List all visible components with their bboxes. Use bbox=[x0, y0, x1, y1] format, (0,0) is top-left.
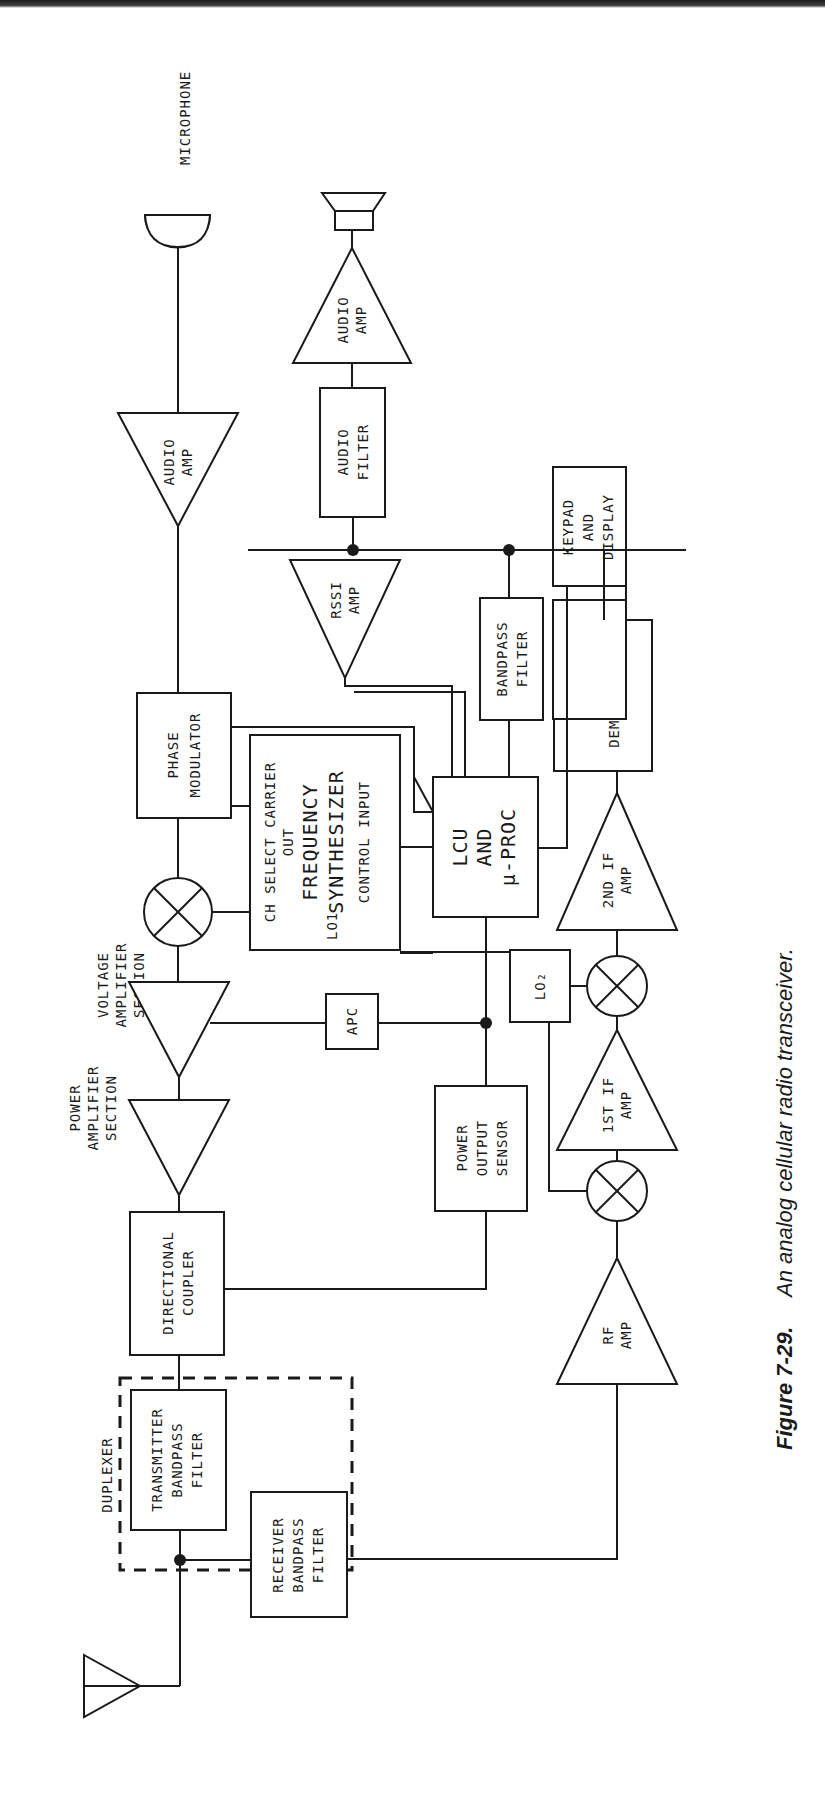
audio-filter-block: AUDIO FILTER bbox=[320, 388, 385, 517]
svg-text:FILTER: FILTER bbox=[310, 1527, 326, 1584]
svg-text:BANDPASS: BANDPASS bbox=[494, 621, 510, 696]
receiver-bandpass-filter-block: RECEIVER BANDPASS FILTER bbox=[251, 1492, 347, 1617]
svg-text:LO₂: LO₂ bbox=[532, 972, 548, 1000]
directional-coupler-block: DIRECTIONAL COUPLER bbox=[130, 1212, 224, 1355]
microphone-icon bbox=[145, 215, 210, 248]
svg-text:RSSI: RSSI bbox=[328, 581, 344, 619]
phase-modulator-block: PHASE MODULATOR bbox=[137, 693, 231, 818]
svg-text:CH SELECT CARRIER: CH SELECT CARRIER bbox=[262, 762, 278, 922]
microphone-label: MICROPHONE bbox=[177, 71, 193, 165]
svg-text:CONTROL INPUT: CONTROL INPUT bbox=[356, 781, 372, 904]
lcu-microprocessor-block: LCU AND µ-PROC bbox=[433, 777, 538, 917]
svg-text:AUDIO: AUDIO bbox=[161, 438, 177, 485]
svg-text:AMPLIFIER: AMPLIFIER bbox=[113, 943, 129, 1028]
svg-text:RECEIVER: RECEIVER bbox=[270, 1517, 286, 1592]
svg-text:2ND IF: 2ND IF bbox=[600, 852, 616, 909]
svg-text:APC: APC bbox=[344, 1007, 360, 1035]
svg-text:AMP: AMP bbox=[353, 306, 369, 334]
svg-text:OUT: OUT bbox=[280, 828, 296, 856]
svg-text:FREQUENCY: FREQUENCY bbox=[298, 783, 322, 900]
duplexer-label: DUPLEXER bbox=[99, 1437, 115, 1512]
svg-text:SYNTHESIZER: SYNTHESIZER bbox=[324, 770, 348, 913]
apc-block: APC bbox=[326, 994, 378, 1049]
svg-text:MICROPHONE: MICROPHONE bbox=[177, 71, 193, 165]
svg-text:SENSOR: SENSOR bbox=[494, 1120, 510, 1177]
keypad-display-block bbox=[553, 600, 626, 719]
svg-text:TRANSMITTER: TRANSMITTER bbox=[149, 1408, 165, 1512]
transceiver-block-diagram: MICROPHONE AUDIO AMP PHASE MODULATOR CH … bbox=[0, 0, 825, 1811]
svg-text:COUPLER: COUPLER bbox=[180, 1250, 196, 1316]
tx-mixer-icon bbox=[144, 878, 212, 946]
rx-mixer-2-icon bbox=[587, 956, 647, 1016]
svg-text:AMP: AMP bbox=[179, 448, 195, 476]
svg-text:AMPLIFIER: AMPLIFIER bbox=[85, 1066, 101, 1151]
svg-text:MODULATOR: MODULATOR bbox=[187, 713, 203, 798]
power-amplifier-label: POWER AMPLIFIER SECTION bbox=[67, 1066, 119, 1151]
rf-amp: RF AMP bbox=[557, 1258, 677, 1384]
svg-text:OUTPUT: OUTPUT bbox=[474, 1120, 490, 1177]
svg-text:AMP: AMP bbox=[618, 866, 634, 894]
svg-text:AMP: AMP bbox=[618, 1091, 634, 1119]
frequency-synthesizer-block: CH SELECT CARRIER OUT FREQUENCY SYNTHESI… bbox=[250, 735, 400, 950]
svg-text:FILTER: FILTER bbox=[514, 631, 530, 688]
bandpass-filter-block: BANDPASS FILTER bbox=[480, 598, 543, 720]
rssi-amp: RSSI AMP bbox=[290, 560, 400, 678]
svg-text:POWER: POWER bbox=[454, 1124, 470, 1171]
svg-text:SECTION: SECTION bbox=[103, 1075, 119, 1141]
svg-text:POWER: POWER bbox=[67, 1084, 83, 1131]
svg-text:LCU: LCU bbox=[448, 827, 472, 866]
svg-text:AMP: AMP bbox=[618, 1321, 634, 1349]
lo2-block: LO₂ bbox=[510, 950, 570, 1022]
svg-text:AMP: AMP bbox=[346, 586, 362, 614]
svg-text:PHASE: PHASE bbox=[165, 731, 181, 778]
antenna-icon bbox=[84, 1655, 180, 1717]
rx-audio-amp: AUDIO AMP bbox=[293, 248, 411, 363]
svg-text:FILTER: FILTER bbox=[355, 424, 371, 481]
rx-mixer-1-icon bbox=[587, 1161, 647, 1221]
power-output-sensor-block: POWER OUTPUT SENSOR bbox=[435, 1086, 527, 1211]
svg-text:VOLTAGE: VOLTAGE bbox=[95, 952, 111, 1018]
svg-text:DIRECTIONAL: DIRECTIONAL bbox=[160, 1231, 176, 1335]
svg-text:BANDPASS: BANDPASS bbox=[169, 1422, 185, 1497]
transmitter-bandpass-filter-block: TRANSMITTER BANDPASS FILTER bbox=[131, 1390, 226, 1530]
svg-text:AUDIO: AUDIO bbox=[335, 296, 351, 343]
svg-text:BANDPASS: BANDPASS bbox=[290, 1517, 306, 1592]
svg-text:µ-PROC: µ-PROC bbox=[496, 808, 520, 886]
svg-text:1ST IF: 1ST IF bbox=[600, 1077, 616, 1134]
first-if-amp: 1ST IF AMP bbox=[557, 1030, 677, 1150]
svg-text:RF: RF bbox=[600, 1326, 616, 1345]
voltage-amplifier-triangle bbox=[129, 982, 229, 1077]
power-amplifier-triangle bbox=[129, 1100, 229, 1195]
svg-text:AUDIO: AUDIO bbox=[335, 428, 351, 475]
svg-text:LO1: LO1 bbox=[324, 912, 340, 940]
speaker-icon bbox=[322, 193, 385, 230]
svg-text:FILTER: FILTER bbox=[189, 1432, 205, 1489]
tx-audio-amp: AUDIO AMP bbox=[118, 413, 238, 526]
second-if-amp: 2ND IF AMP bbox=[557, 793, 677, 930]
svg-text:DUPLEXER: DUPLEXER bbox=[99, 1437, 115, 1512]
svg-text:AND: AND bbox=[472, 827, 496, 866]
